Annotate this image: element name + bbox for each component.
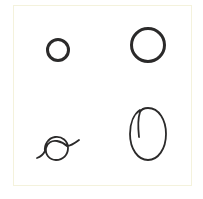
shapes-canvas (0, 0, 203, 199)
looped-scribble-shape (37, 137, 79, 160)
oval-with-tail-shape (130, 108, 166, 160)
large-circle-shape (132, 29, 165, 62)
small-circle-shape (48, 40, 69, 61)
